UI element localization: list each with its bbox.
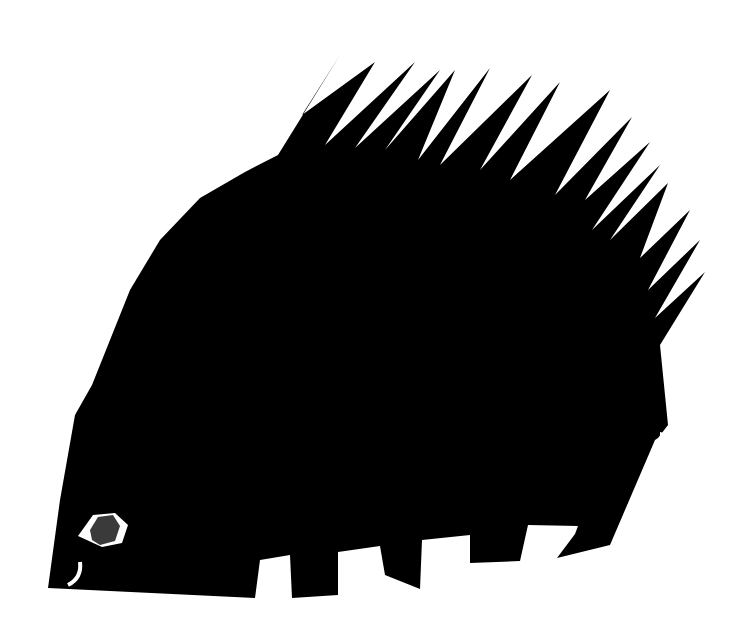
porcupine-silhouette — [0, 0, 748, 635]
porcupine-artwork — [0, 0, 748, 635]
porcupine-body — [48, 55, 705, 598]
spine-gap — [660, 432, 672, 440]
